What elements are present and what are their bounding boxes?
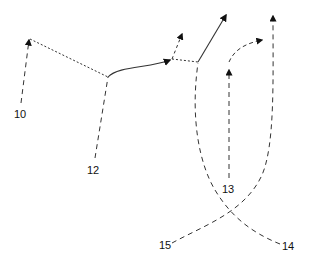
label-10: 10 [14,109,26,120]
dotted-link-junction-b [172,59,198,62]
label-15: 15 [159,240,171,251]
path-10-dashed [21,40,29,103]
short-dashed-arrow [172,34,182,59]
label-12: 12 [87,165,99,176]
path-14-dashed [195,63,280,244]
curved-dashed-arrow [229,40,262,62]
path-15-dashed [172,16,273,243]
label-14: 14 [282,241,294,252]
path-12-dashed [95,77,108,158]
solid-arrow-upright [198,15,226,62]
label-13: 13 [222,184,234,195]
dotted-link-10-to-junction [30,39,108,77]
path-diagram: 10 12 13 14 15 [0,0,311,266]
solid-curve-arrow [108,60,170,77]
diagram-canvas [0,0,311,266]
